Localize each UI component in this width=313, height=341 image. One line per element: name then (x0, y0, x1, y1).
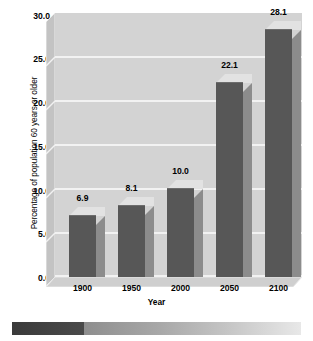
bar-front-face (167, 188, 194, 277)
y-tick-label: 0.0 (16, 273, 50, 283)
y-tick-label: 10.0 (16, 186, 50, 196)
figure: Percentage of population 60 years or old… (0, 0, 313, 341)
bar-value-label: 28.1 (255, 7, 302, 17)
x-tick-label: 2100 (255, 283, 302, 293)
bar-front-face (118, 205, 145, 277)
bar-side-face (243, 83, 252, 277)
x-tick-label: 2000 (157, 283, 204, 293)
bar-front-face (265, 29, 292, 277)
bar-front-face (69, 215, 96, 277)
bar-1900[interactable] (69, 216, 96, 277)
bar-2000[interactable] (167, 189, 194, 277)
plot-area: 6.9 8.1 10.0 22.1 28.1 (55, 13, 302, 277)
bar-side-face (96, 216, 105, 277)
bar-front-face (216, 82, 243, 277)
x-tick-label: 1950 (108, 283, 155, 293)
y-tick-label: 5.0 (16, 229, 50, 239)
x-axis-title: Year (0, 297, 313, 307)
bar-2050[interactable] (216, 83, 243, 277)
x-tick-label: 2050 (206, 283, 253, 293)
y-tick-label: 20.0 (16, 98, 50, 108)
y-axis-tick-labels: 30.0 25.0 20.0 15.0 10.0 5.0 0.0 (12, 0, 50, 341)
bar-2100[interactable] (265, 30, 292, 277)
bar-side-face (194, 189, 203, 277)
bar-value-label: 22.1 (206, 60, 253, 70)
x-tick-label: 1900 (59, 283, 106, 293)
bar-value-label: 6.9 (59, 193, 106, 203)
bar-side-face (145, 206, 154, 277)
y-tick-label: 15.0 (16, 142, 50, 152)
y-tick-label: 25.0 (16, 54, 50, 64)
x-axis-tick-labels: 1900 1950 2000 2050 2100 (55, 283, 305, 297)
bar-side-face (292, 30, 301, 277)
bar-value-label: 8.1 (108, 183, 155, 193)
footer-color-strip (12, 322, 301, 335)
bar-1950[interactable] (118, 206, 145, 277)
footer-gradient-segment (84, 322, 301, 335)
footer-dark-segment (12, 322, 84, 335)
y-tick-label: 30.0 (16, 11, 50, 21)
bar-value-label: 10.0 (157, 166, 204, 176)
